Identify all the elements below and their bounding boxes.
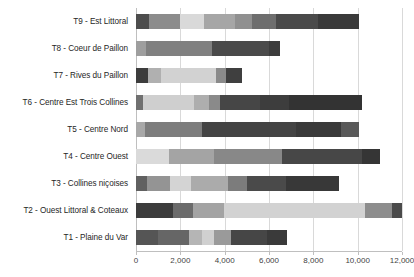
bar-segment[interactable] (169, 149, 213, 164)
bar-segment[interactable] (276, 14, 318, 29)
bar-segment[interactable] (136, 95, 143, 110)
x-axis-ticks: 02,0004,0006,0008,00010,00012,000 (136, 252, 402, 272)
x-tick-mark (269, 252, 270, 255)
bar-segment[interactable] (392, 203, 402, 218)
bar-row[interactable] (136, 197, 402, 224)
bar-segment[interactable] (161, 68, 215, 83)
bar-segment[interactable] (136, 203, 173, 218)
bar-rows (136, 8, 402, 251)
bar-segment[interactable] (158, 230, 189, 245)
stacked-bar[interactable] (136, 203, 402, 218)
bar-segment[interactable] (136, 230, 158, 245)
bar-row[interactable] (136, 143, 402, 170)
bar-row[interactable] (136, 116, 402, 143)
y-axis-label: T9 - Est Littoral (73, 8, 128, 35)
bar-segment[interactable] (202, 230, 213, 245)
bar-segment[interactable] (204, 14, 235, 29)
bar-row[interactable] (136, 170, 402, 197)
bar-segment[interactable] (365, 203, 392, 218)
y-axis-labels: T9 - Est LittoralT8 - Coeur de PaillonT7… (0, 8, 132, 251)
gridline-12000 (402, 8, 403, 251)
bar-segment[interactable] (247, 176, 286, 191)
y-axis-label: T7 - Rives du Paillon (54, 62, 129, 89)
bar-segment[interactable] (228, 176, 247, 191)
y-axis-label: T3 - Collines niçoises (51, 170, 128, 197)
bar-segment[interactable] (269, 41, 280, 56)
bar-row[interactable] (136, 8, 402, 35)
bar-segment[interactable] (224, 203, 366, 218)
x-tick-mark (402, 252, 403, 255)
x-tick-mark (313, 252, 314, 255)
stacked-bar[interactable] (136, 41, 280, 56)
bar-row[interactable] (136, 89, 402, 116)
stacked-bar[interactable] (136, 68, 242, 83)
bar-segment[interactable] (180, 14, 203, 29)
bar-segment[interactable] (136, 149, 169, 164)
stacked-bar[interactable] (136, 149, 380, 164)
bar-segment[interactable] (136, 176, 147, 191)
bar-segment[interactable] (260, 95, 289, 110)
bar-segment[interactable] (362, 149, 380, 164)
bar-segment[interactable] (286, 176, 339, 191)
bar-segment[interactable] (148, 68, 161, 83)
bar-segment[interactable] (214, 230, 232, 245)
stacked-bar[interactable] (136, 230, 287, 245)
x-tick-mark (136, 252, 137, 255)
bar-segment[interactable] (194, 95, 210, 110)
bar-row[interactable] (136, 62, 402, 89)
bar-segment[interactable] (189, 230, 202, 245)
bar-segment[interactable] (216, 68, 226, 83)
bar-segment[interactable] (220, 95, 260, 110)
x-axis-tick-label: 8,000 (303, 256, 323, 265)
x-axis-tick-label: 12,000 (390, 256, 414, 265)
bar-segment[interactable] (282, 149, 362, 164)
plot-area (136, 8, 402, 251)
bar-segment[interactable] (170, 176, 191, 191)
x-tick-mark (180, 252, 181, 255)
x-axis-tick-label: 0 (134, 256, 138, 265)
y-axis-label: T5 - Centre Nord (67, 116, 128, 143)
bar-segment[interactable] (214, 149, 283, 164)
bar-segment[interactable] (252, 14, 275, 29)
bar-segment[interactable] (202, 122, 295, 137)
stacked-bar[interactable] (136, 122, 359, 137)
x-axis-tick-label: 10,000 (345, 256, 369, 265)
bar-segment[interactable] (193, 203, 224, 218)
bar-segment[interactable] (289, 95, 362, 110)
bar-segment[interactable] (143, 95, 194, 110)
bar-segment[interactable] (145, 122, 203, 137)
stacked-bar[interactable] (136, 95, 362, 110)
bar-segment[interactable] (136, 41, 146, 56)
stacked-bar[interactable] (136, 176, 339, 191)
bar-segment[interactable] (146, 41, 212, 56)
bar-segment[interactable] (226, 68, 243, 83)
y-axis-label: T1 - Plaine du Var (64, 224, 128, 251)
y-axis-label: T8 - Coeur de Paillon (52, 35, 128, 62)
bar-segment[interactable] (136, 68, 148, 83)
x-axis-tick-label: 6,000 (259, 256, 279, 265)
bar-segment[interactable] (136, 14, 149, 29)
bar-segment[interactable] (318, 14, 359, 29)
y-axis-label: T6 - Centre Est Trois Collines (23, 89, 128, 116)
bar-segment[interactable] (173, 203, 193, 218)
bar-segment[interactable] (231, 230, 266, 245)
bar-segment[interactable] (191, 176, 228, 191)
x-axis-tick-label: 2,000 (170, 256, 190, 265)
bar-row[interactable] (136, 35, 402, 62)
y-axis-label: T4 - Centre Ouest (63, 143, 128, 170)
x-axis-tick-label: 4,000 (215, 256, 235, 265)
bar-segment[interactable] (341, 122, 359, 137)
stacked-bar[interactable] (136, 14, 359, 29)
bar-segment[interactable] (235, 14, 253, 29)
bar-segment[interactable] (147, 176, 170, 191)
bar-segment[interactable] (212, 41, 269, 56)
bar-segment[interactable] (149, 14, 180, 29)
bar-segment[interactable] (296, 122, 341, 137)
bar-segment[interactable] (267, 230, 287, 245)
x-tick-mark (358, 252, 359, 255)
bar-row[interactable] (136, 224, 402, 251)
y-axis-label: T2 - Ouest Littoral & Coteaux (23, 197, 128, 224)
bar-segment[interactable] (209, 95, 220, 110)
bar-segment[interactable] (136, 122, 145, 137)
